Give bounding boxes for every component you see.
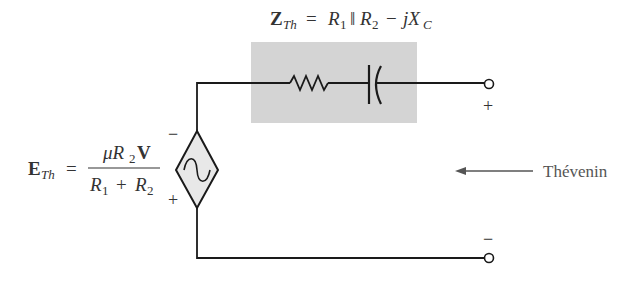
svg-text:V: V (137, 142, 151, 163)
svg-text:1: 1 (102, 183, 109, 198)
svg-text:μR: μR (102, 142, 125, 163)
bottom-terminal-polarity: − (483, 229, 493, 249)
bottom-wire (197, 200, 485, 258)
svg-text:R: R (327, 8, 340, 29)
svg-text:‖: ‖ (350, 8, 355, 29)
source-polarity-top: − (168, 124, 178, 144)
svg-text:R: R (134, 174, 147, 195)
top-terminal[interactable] (485, 80, 494, 89)
source-voltage-formula: E Th = μR 2 V R 1 + R 2 (28, 142, 160, 198)
svg-text:−: − (386, 8, 397, 29)
svg-text:+: + (116, 174, 127, 195)
svg-text:Th: Th (41, 167, 55, 182)
svg-text:C: C (423, 17, 432, 32)
impedance-formula: Z Th = R 1 ‖ R 2 − jX C (270, 8, 432, 32)
bottom-terminal[interactable] (485, 254, 494, 263)
top-terminal-polarity: + (483, 96, 493, 116)
svg-text:1: 1 (340, 17, 347, 32)
svg-text:2: 2 (372, 17, 379, 32)
svg-text:Th: Th (283, 17, 297, 32)
source-polarity-bottom: + (168, 190, 178, 210)
thevenin-arrow-head-icon (455, 167, 466, 175)
svg-text:=: = (306, 8, 317, 29)
thevenin-equivalent-diagram: + − − + Z Th = R 1 ‖ R 2 − jX C E Th = μ… (0, 0, 644, 291)
svg-text:2: 2 (129, 151, 136, 166)
svg-text:Z: Z (270, 8, 283, 29)
svg-text:R: R (359, 8, 372, 29)
svg-text:jX: jX (400, 8, 421, 29)
svg-text:R: R (89, 174, 102, 195)
svg-text:=: = (66, 158, 77, 179)
svg-text:E: E (28, 158, 41, 179)
svg-text:2: 2 (147, 183, 154, 198)
thevenin-label: Thévenin (543, 162, 608, 181)
